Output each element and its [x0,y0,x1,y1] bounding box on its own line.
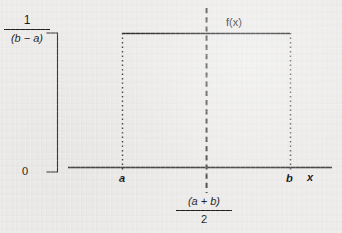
midpoint-denominator: 2 [176,213,232,225]
tick-label-b: b [286,173,293,184]
x-axis-label: x [307,172,313,183]
density-denominator: (b − a) [4,32,50,44]
density-height-label: 1 (b − a) [4,14,50,44]
y-axis-bracket [47,33,58,172]
uniform-distribution-plot [0,0,342,233]
tick-label-a: a [119,173,125,184]
fraction-bar [4,29,50,30]
midpoint-label: (a + b) 2 [176,196,232,225]
zero-label: 0 [22,166,28,177]
figure-canvas: 1 (b − a) 0 f(x) a b x (a + b) 2 [0,0,342,233]
fraction-bar [176,210,232,211]
function-label: f(x) [226,17,242,28]
midpoint-numerator: (a + b) [176,196,232,208]
density-numerator: 1 [4,14,50,27]
